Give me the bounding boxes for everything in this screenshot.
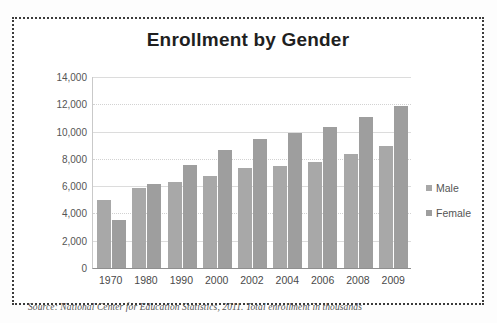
bar-group [97,77,126,268]
y-axis-tick-label: 10,000 [56,126,87,137]
legend-label: Female [436,207,471,219]
y-axis-tick-label: 8,000 [62,153,87,164]
y-axis-tick-label: 2,000 [62,235,87,246]
legend-swatch-icon [426,210,432,216]
x-axis-tick-labels: 197019801990200020022004200620082009 [93,274,411,286]
bar-male-1980[interactable] [132,188,146,268]
x-axis-tick-label: 1970 [94,274,127,286]
bar-male-2008[interactable] [344,154,358,268]
bar-series-container [94,77,411,268]
bar-group [132,77,161,268]
legend-swatch-icon [426,185,432,191]
bar-group [273,77,302,268]
chart-frame: Enrollment by Gender 14,00012,00010,0008… [12,17,484,305]
bar-male-2009[interactable] [379,146,393,268]
legend-item-male[interactable]: Male [426,182,471,194]
bar-female-1980[interactable] [147,184,161,268]
bar-group [344,77,373,268]
bar-female-2008[interactable] [359,117,373,268]
y-axis-tick-label: 14,000 [56,72,87,83]
chart-legend: MaleFemale [426,182,471,219]
y-axis-tick-label: 6,000 [62,181,87,192]
x-axis-tick-label: 2008 [341,274,374,286]
y-axis-tick-label: 12,000 [56,99,87,110]
bar-male-1970[interactable] [97,200,111,268]
scanned-page: Enrollment by Gender 14,00012,00010,0008… [0,0,497,323]
bar-male-2004[interactable] [273,166,287,268]
bar-female-2004[interactable] [288,133,302,268]
bar-female-1970[interactable] [112,220,126,268]
bar-male-2006[interactable] [308,162,322,268]
bar-group [308,77,337,268]
bar-male-2002[interactable] [238,168,252,268]
bar-female-2002[interactable] [253,139,267,268]
source-note: Source: National Center for Education St… [28,302,362,312]
x-axis-tick-label: 2004 [271,274,304,286]
bar-group [203,77,232,268]
bar-group [379,77,408,268]
chart-title: Enrollment by Gender [14,29,482,51]
bar-group [238,77,267,268]
bar-female-2000[interactable] [218,150,232,268]
x-axis-tick-label: 2000 [200,274,233,286]
bar-female-1990[interactable] [183,165,197,268]
x-axis-tick-label: 2006 [306,274,339,286]
bar-male-1990[interactable] [168,182,182,268]
plot-area: 14,00012,00010,0008,0006,0004,0002,0000 [92,77,411,269]
legend-item-female[interactable]: Female [426,207,471,219]
x-axis-tick-label: 2009 [377,274,410,286]
y-axis-tick-label: 0 [81,263,87,274]
legend-label: Male [436,182,459,194]
x-axis-tick-label: 1990 [165,274,198,286]
bar-group [168,77,197,268]
y-axis-tick-label: 4,000 [62,208,87,219]
bar-male-2000[interactable] [203,176,217,268]
bar-female-2006[interactable] [323,127,337,268]
x-axis-tick-label: 2002 [235,274,268,286]
x-axis-tick-label: 1980 [129,274,162,286]
bar-female-2009[interactable] [394,106,408,268]
